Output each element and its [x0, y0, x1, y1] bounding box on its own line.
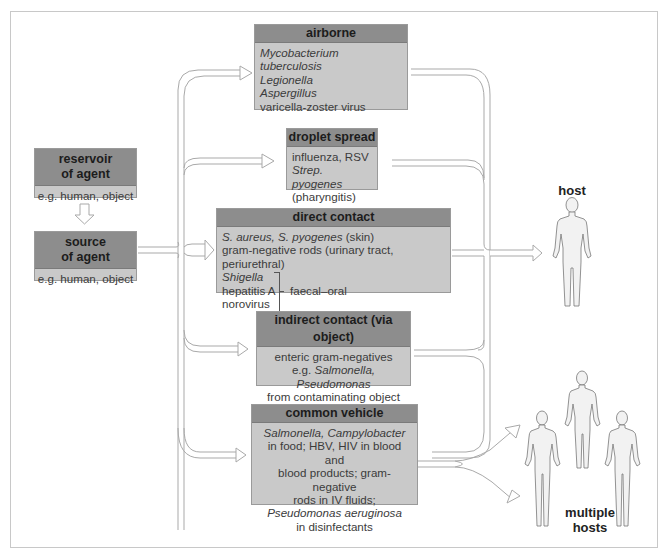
airborne-header: airborne: [255, 25, 407, 43]
common-vehicle-line: in disinfectants: [257, 520, 412, 533]
source-example: e.g. human, object: [35, 269, 136, 288]
airborne-box: airborne Mycobacterium tuberculosis Legi…: [254, 24, 408, 110]
direct-contact-header: direct contact: [217, 209, 450, 227]
direct-contact-organisms: S. aureus, S. pyogenes: [222, 230, 343, 243]
source-of-agent-box: source of agent e.g. human, object: [34, 231, 137, 281]
common-vehicle-header: common vehicle: [252, 405, 417, 423]
common-vehicle-line: in food; HBV, HIV in blood and: [257, 439, 412, 466]
direct-contact-line: Shigella: [222, 270, 445, 283]
airborne-line: varicella-zoster virus: [260, 100, 402, 113]
common-vehicle-box: common vehicle Salmonella, Campylobacter…: [251, 404, 418, 505]
human-figure-icon: [565, 371, 600, 468]
direct-contact-line: norovirus: [222, 297, 445, 310]
airborne-line: Aspergillus: [260, 86, 402, 99]
faecal-oral-group: Shigella hepatitis A norovirus faecal–or…: [222, 270, 445, 310]
common-vehicle-line: Pseudomonas aeruginosa: [257, 506, 412, 519]
droplet-body: influenza, RSV Strep. pyogenes (pharyngi…: [287, 147, 377, 207]
multiple-hosts-label: multiple hosts: [560, 505, 620, 535]
bracket-tick: [279, 291, 284, 292]
human-figure-icon: [548, 196, 596, 312]
indirect-contact-line: enteric gram-negatives: [262, 350, 405, 363]
source-title-line1: source: [35, 235, 136, 250]
direct-contact-site: (skin): [343, 230, 375, 243]
direct-contact-line: S. aureus, S. pyogenes (skin): [222, 230, 445, 243]
reservoir-title-line2: of agent: [35, 167, 136, 182]
indirect-contact-line: e.g. Salmonella, Pseudomonas: [262, 363, 405, 390]
down-arrow-icon: [75, 204, 94, 224]
droplet-line: Strep. pyogenes: [292, 163, 372, 190]
human-figure-icon: [525, 411, 560, 526]
droplet-line: (pharyngitis): [292, 190, 372, 203]
multiple-hosts-label-line2: hosts: [560, 520, 620, 535]
indirect-contact-line: from contaminating object: [262, 390, 405, 403]
droplet-line: influenza, RSV: [292, 150, 372, 163]
indirect-contact-box: indirect contact (via object) enteric gr…: [256, 311, 411, 386]
droplet-spread-box: droplet spread influenza, RSV Strep. pyo…: [286, 128, 378, 190]
airborne-line: Mycobacterium tuberculosis: [260, 46, 402, 73]
common-vehicle-line: rods in IV fluids;: [257, 493, 412, 506]
direct-contact-body: S. aureus, S. pyogenes (skin) gram-negat…: [217, 227, 450, 313]
airborne-body: Mycobacterium tuberculosis Legionella As…: [255, 43, 407, 116]
eg-prefix: e.g.: [292, 363, 315, 376]
common-vehicle-body: Salmonella, Campylobacter in food; HBV, …: [252, 423, 417, 536]
reservoir-example: e.g. human, object: [35, 186, 136, 205]
reservoir-header: reservoir of agent: [35, 149, 136, 186]
droplet-header: droplet spread: [287, 129, 377, 147]
direct-contact-box: direct contact S. aureus, S. pyogenes (s…: [216, 208, 451, 293]
common-vehicle-line: blood products; gram-negative: [257, 466, 412, 493]
faecal-oral-label: faecal–oral: [290, 284, 347, 297]
reservoir-title-line1: reservoir: [35, 152, 136, 167]
indirect-contact-header: indirect contact (via object): [257, 312, 410, 347]
common-vehicle-line: Salmonella, Campylobacter: [257, 426, 412, 439]
multiple-hosts-label-line1: multiple: [560, 505, 620, 520]
source-title-line2: of agent: [35, 250, 136, 265]
reservoir-of-agent-box: reservoir of agent e.g. human, object: [34, 148, 137, 198]
bracket-icon: [274, 272, 280, 312]
source-header: source of agent: [35, 232, 136, 269]
airborne-line: Legionella: [260, 73, 402, 86]
direct-contact-line: gram-negative rods (urinary tract, periu…: [222, 243, 445, 270]
